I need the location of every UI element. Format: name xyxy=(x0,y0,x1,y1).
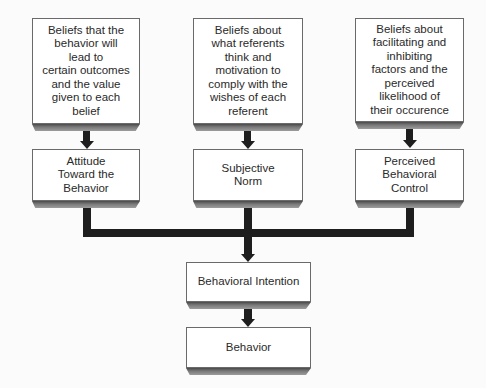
arrow-down-icon xyxy=(241,141,255,149)
connector-norm-down xyxy=(244,207,252,255)
arrow-down-icon xyxy=(241,254,255,262)
attitude-box: Attitude Toward the Behavior xyxy=(32,149,140,201)
arrow-down-icon xyxy=(80,141,94,149)
control-beliefs-box: Beliefs about facilitating and inhibitin… xyxy=(355,18,464,122)
attitude-text: Attitude Toward the Behavior xyxy=(58,155,114,195)
behavior-box: Behavior xyxy=(186,327,311,368)
arrow-down-icon xyxy=(403,140,417,148)
control-beliefs-shadow xyxy=(355,122,464,129)
behavioral-intention-text: Behavioral Intention xyxy=(198,275,300,288)
behavioral-intention-box: Behavioral Intention xyxy=(186,262,311,302)
subjective-norm-shadow xyxy=(193,201,303,208)
behavioral-beliefs-box: Beliefs that the behavior will lead to c… xyxy=(32,18,140,124)
subjective-norm-text: Subjective Norm xyxy=(221,162,274,189)
behavioral-beliefs-shadow xyxy=(32,124,140,131)
arrow-down-icon xyxy=(241,319,255,327)
normative-beliefs-box: Beliefs about what referents think and m… xyxy=(193,18,303,124)
subjective-norm-box: Subjective Norm xyxy=(193,149,303,201)
normative-beliefs-shadow xyxy=(193,124,303,131)
perceived-behavioral-control-box: Perceived Behavioral Control xyxy=(355,149,464,201)
normative-beliefs-text: Beliefs about what referents think and m… xyxy=(208,24,287,118)
attitude-shadow xyxy=(32,201,140,208)
behavior-shadow xyxy=(186,368,311,375)
control-beliefs-text: Beliefs about facilitating and inhibitin… xyxy=(370,23,449,117)
behavioral-beliefs-text: Beliefs that the behavior will lead to c… xyxy=(42,24,130,118)
perceived-behavioral-control-text: Perceived Behavioral Control xyxy=(382,155,436,195)
perceived-behavioral-control-shadow xyxy=(355,201,464,208)
behavior-text: Behavior xyxy=(226,341,271,354)
diagram-canvas: Beliefs that the behavior will lead to c… xyxy=(0,0,486,388)
behavioral-intention-shadow xyxy=(186,302,311,309)
